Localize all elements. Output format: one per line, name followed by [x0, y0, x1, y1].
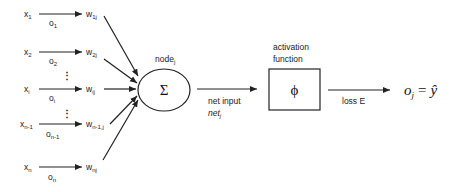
- weight-wij: wij: [85, 84, 95, 95]
- net-input-label: net input: [208, 96, 241, 106]
- weight-w1j: w1j: [85, 9, 97, 20]
- output-on: on: [48, 172, 56, 183]
- loss: loss E: [328, 90, 390, 106]
- ellipsis-upper: ⋮: [62, 70, 72, 81]
- input-xi: xi: [24, 84, 30, 95]
- activation-label-2: function: [273, 54, 303, 64]
- weight-arrow-1: [104, 16, 138, 76]
- activation-function: activation function ϕ: [269, 42, 320, 110]
- output-on-1: on-1: [46, 129, 60, 140]
- loss-label: loss E: [342, 96, 365, 106]
- input-x2: x2: [24, 47, 32, 58]
- phi-symbol: ϕ: [291, 82, 299, 98]
- input-row-2: x2 o2 w2j: [24, 47, 137, 83]
- output-equation: oj=ŷ: [404, 82, 437, 100]
- node-label: nodej: [155, 54, 175, 65]
- net-input: net input netj: [197, 89, 257, 119]
- input-row-i: xi oi wij: [24, 84, 136, 104]
- neuron-diagram: x1 o1 w1j x2 o2 w2j ⋮ xi oi wij ⋮ xn-1 o…: [0, 0, 465, 192]
- summation-node: nodej Σ: [138, 54, 190, 111]
- output-o2: o2: [49, 56, 58, 67]
- weight-wn-1j: wn-1,j: [85, 119, 104, 130]
- output-formula: oj=ŷ: [404, 82, 437, 100]
- input-row-1: x1 o1 w1j: [24, 9, 138, 76]
- weight-arrow-2: [104, 59, 137, 83]
- weight-arrow-n: [103, 100, 138, 160]
- weight-w2j: w2j: [85, 47, 97, 58]
- activation-label-1: activation: [273, 42, 309, 52]
- input-row-n-1: xn-1 on-1 wn-1,j: [20, 96, 137, 140]
- output-oi: oi: [49, 93, 55, 104]
- ellipsis-lower: ⋮: [62, 108, 72, 119]
- sigma-symbol: Σ: [160, 82, 169, 98]
- weight-arrow-n-1: [110, 96, 137, 124]
- weight-wnj: wnj: [85, 162, 97, 173]
- input-xn: xn: [24, 162, 32, 173]
- output-o1: o1: [49, 18, 58, 29]
- net-input-var: netj: [208, 108, 222, 119]
- input-xn-1: xn-1: [20, 119, 34, 130]
- input-x1: x1: [24, 9, 32, 20]
